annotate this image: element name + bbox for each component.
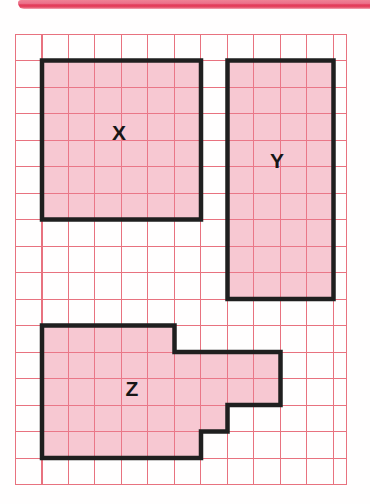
- shape-z-label: Z: [126, 378, 139, 399]
- shapes-overlay: [0, 0, 370, 504]
- textbook-page-figure: X Y Z: [0, 0, 370, 504]
- shape-y-outline: [228, 61, 334, 300]
- shape-x-label: X: [112, 122, 126, 143]
- shape-z-outline: [42, 326, 281, 459]
- shape-y-label: Y: [270, 150, 284, 171]
